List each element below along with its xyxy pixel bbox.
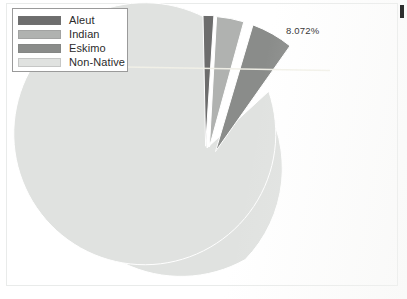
legend-item-eskimo[interactable]: Eskimo: [18, 41, 122, 55]
chart-page: 8.072% Aleut Indian Eskimo Non-Native: [0, 0, 407, 299]
legend-swatch-eskimo: [18, 44, 61, 53]
legend-swatch-aleut: [18, 16, 61, 25]
legend-item-aleut[interactable]: Aleut: [18, 13, 122, 27]
legend-label-eskimo: Eskimo: [69, 43, 106, 54]
legend-item-non-native[interactable]: Non-Native: [18, 55, 122, 69]
legend-swatch-indian: [18, 30, 61, 39]
legend-label-indian: Indian: [69, 29, 100, 40]
slice-percent-label: 8.072%: [286, 25, 319, 36]
legend-item-indian[interactable]: Indian: [18, 27, 122, 41]
cropped-edge-element: [400, 5, 404, 18]
legend-swatch-non-native: [18, 58, 61, 67]
legend-label-non-native: Non-Native: [69, 57, 125, 68]
legend: Aleut Indian Eskimo Non-Native: [12, 8, 128, 72]
legend-label-aleut: Aleut: [69, 15, 95, 26]
